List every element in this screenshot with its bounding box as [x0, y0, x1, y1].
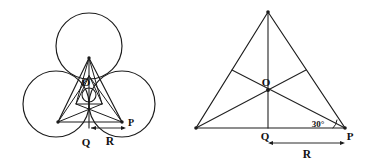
geometry-figure-svg: O Q P R O Q P [0, 0, 370, 167]
left-label-q: Q [82, 136, 91, 148]
right-label-p: P [347, 130, 354, 142]
right-label-q: Q [261, 130, 270, 142]
right-apex-dot [266, 10, 270, 14]
right-base-left-dot [194, 126, 198, 130]
right-dim-arrow-end [340, 141, 345, 145]
left-base-right-dot [120, 120, 123, 123]
right-label-o: O [262, 76, 271, 88]
right-centroid-dot [266, 88, 270, 92]
left-dim-arrow-start [91, 126, 96, 130]
right-label-angle: 30° [312, 119, 325, 129]
left-label-r: R [106, 135, 115, 147]
left-panel-group: O Q P R [23, 13, 155, 148]
right-medians-group [196, 12, 345, 128]
right-label-r: R [303, 148, 312, 160]
left-dim-arrow-end [121, 126, 126, 130]
right-angle-arc [333, 120, 337, 128]
left-label-p: P [128, 117, 134, 128]
right-panel-group: O Q P 30° R [194, 10, 353, 160]
right-dimension-r [268, 141, 345, 145]
left-label-o: O [82, 76, 91, 88]
right-outer-triangle-path [196, 12, 345, 128]
left-base-left-dot [56, 120, 59, 123]
geometry-figure-container: O Q P R O Q P [0, 0, 370, 167]
left-apex-dot [87, 56, 90, 59]
left-dimension-r [91, 126, 126, 130]
